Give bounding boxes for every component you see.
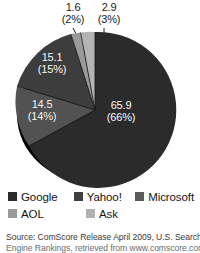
- source-line-2: Engine Rankings, retrieved from www.coms…: [6, 243, 200, 253]
- source-line-1: Source: ComScore Release April 2009, U.S…: [6, 232, 200, 243]
- slice-yahoo-value: 15.1: [42, 51, 63, 63]
- legend-item-yahoo[interactable]: Yahoo!: [74, 191, 136, 203]
- slice-label-microsoft: 14.5 (14%): [22, 99, 62, 122]
- legend-row-1: Google Yahoo! Microsoft: [8, 188, 194, 205]
- legend-swatch-microsoft: [135, 192, 144, 201]
- legend-swatch-aol: [8, 209, 17, 218]
- pie-svg: [0, 0, 200, 192]
- legend-swatch-ask: [86, 209, 95, 218]
- legend-label-google: Google: [21, 191, 57, 203]
- pie-chart-figure: 1.6 (2%) 2.9 (3%): [0, 0, 200, 253]
- legend-label-yahoo: Yahoo!: [87, 191, 122, 203]
- legend-item-ask[interactable]: Ask: [86, 208, 118, 220]
- source-note: Source: ComScore Release April 2009, U.S…: [6, 232, 200, 253]
- legend-item-google[interactable]: Google: [8, 191, 74, 203]
- legend-swatch-google: [8, 192, 17, 201]
- slice-microsoft-percent: (14%): [28, 110, 56, 122]
- slice-google-percent: (66%): [107, 111, 135, 123]
- legend-row-2: AOL Ask: [8, 205, 194, 222]
- legend-label-aol: AOL: [21, 208, 44, 220]
- slice-microsoft-value: 14.5: [32, 98, 53, 110]
- legend-item-microsoft[interactable]: Microsoft: [135, 191, 194, 203]
- legend-swatch-yahoo: [74, 192, 83, 201]
- slice-google-value: 65.9: [111, 99, 132, 111]
- slice-yahoo-percent: (15%): [38, 63, 66, 75]
- legend-label-microsoft: Microsoft: [148, 191, 194, 203]
- slice-label-google: 65.9 (66%): [100, 100, 142, 123]
- chart-legend: Google Yahoo! Microsoft AOL Ask: [8, 188, 194, 222]
- legend-item-aol[interactable]: AOL: [8, 208, 86, 220]
- pie-graphic: [0, 0, 200, 192]
- slice-label-yahoo: 15.1 (15%): [32, 52, 72, 75]
- legend-label-ask: Ask: [99, 208, 118, 220]
